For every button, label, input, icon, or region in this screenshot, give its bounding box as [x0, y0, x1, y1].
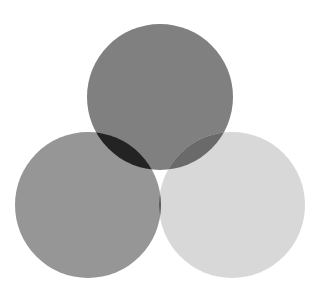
venn-diagram-canvas: [0, 0, 320, 295]
venn-diagram-figure: [0, 0, 320, 295]
